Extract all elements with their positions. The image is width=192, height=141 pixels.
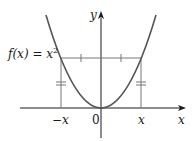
y-axis-arrow-icon — [98, 11, 104, 19]
function-label: f(x) = x2 — [7, 46, 58, 61]
y-axis-label: y — [89, 8, 97, 22]
tick-label-positive-x: x — [138, 113, 145, 127]
x-axis-label: x — [178, 113, 185, 127]
tick-label-origin: 0 — [92, 113, 100, 127]
even-function-diagram: f(x) = x2 y x −x 0 x — [0, 0, 192, 141]
function-label-exponent: 2 — [53, 46, 58, 55]
tick-label-negative-x: −x — [52, 113, 69, 127]
